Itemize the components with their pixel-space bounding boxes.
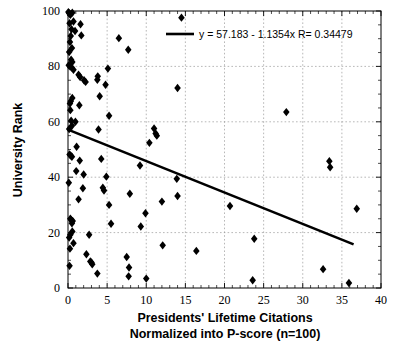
chart-svg: y = 57.183 - 1.1354x R= 0.34479 05101520… bbox=[0, 0, 399, 350]
x-tick-label: 15 bbox=[179, 293, 191, 307]
data-point-marker bbox=[116, 34, 123, 42]
data-point-marker bbox=[159, 197, 166, 205]
x-tick-label: 20 bbox=[219, 293, 231, 307]
data-point-marker bbox=[178, 13, 185, 21]
x-tick-label: 40 bbox=[375, 293, 387, 307]
data-point-marker bbox=[66, 179, 73, 187]
y-tick-label: 20 bbox=[48, 226, 60, 240]
x-tick-label: 10 bbox=[140, 293, 152, 307]
data-point-marker bbox=[327, 163, 334, 171]
data-point-marker bbox=[86, 231, 93, 239]
data-point-marker bbox=[251, 234, 258, 242]
data-point-marker bbox=[80, 170, 87, 178]
data-point-marker bbox=[78, 31, 85, 39]
data-point-marker bbox=[125, 46, 132, 54]
legend: y = 57.183 - 1.1354x R= 0.34479 bbox=[166, 28, 353, 40]
data-point-marker bbox=[353, 205, 360, 213]
data-point-marker bbox=[283, 108, 290, 116]
data-point-marker bbox=[66, 262, 73, 270]
data-point-marker bbox=[123, 253, 130, 261]
x-tick-label: 25 bbox=[258, 293, 270, 307]
x-tick-label: 5 bbox=[104, 293, 110, 307]
data-point-marker bbox=[146, 139, 153, 147]
data-point-marker bbox=[83, 250, 90, 258]
scatter-chart: y = 57.183 - 1.1354x R= 0.34479 05101520… bbox=[0, 0, 399, 350]
x-tick-label: 30 bbox=[297, 293, 309, 307]
x-axis-title-line2: Normalized into P-score (n=100) bbox=[130, 327, 321, 341]
data-point-marker bbox=[75, 195, 82, 203]
data-point-marker bbox=[193, 247, 200, 255]
data-point-marker bbox=[73, 143, 80, 151]
legend-equation-label: y = 57.183 - 1.1354x R= 0.34479 bbox=[199, 28, 353, 40]
data-point-marker bbox=[346, 279, 353, 287]
y-tick-label: 0 bbox=[54, 281, 60, 295]
x-tick-label: 35 bbox=[336, 293, 348, 307]
data-point-marker bbox=[174, 192, 181, 200]
data-point-marker bbox=[249, 276, 256, 284]
data-point-marker bbox=[173, 175, 180, 183]
data-point-marker bbox=[95, 125, 102, 133]
data-point-marker bbox=[73, 167, 80, 175]
y-axis-tick-labels: 020406080100 bbox=[42, 4, 60, 295]
data-point-marker bbox=[143, 274, 150, 282]
data-point-marker bbox=[77, 20, 84, 28]
data-point-marker bbox=[137, 161, 144, 169]
data-point-marker bbox=[174, 84, 181, 92]
data-point-marker bbox=[76, 101, 83, 109]
data-point-marker bbox=[108, 220, 115, 228]
y-tick-label: 60 bbox=[48, 115, 60, 129]
y-tick-label: 100 bbox=[42, 4, 60, 18]
data-point-marker bbox=[96, 92, 103, 100]
data-point-marker bbox=[103, 172, 110, 180]
y-axis-title: University Rank bbox=[11, 103, 25, 198]
data-point-marker bbox=[80, 184, 87, 192]
data-point-marker bbox=[159, 241, 166, 249]
data-point-marker bbox=[98, 155, 105, 163]
data-point-marker bbox=[125, 272, 132, 280]
data-point-marker bbox=[102, 80, 109, 88]
data-point-marker bbox=[137, 222, 144, 230]
data-point-marker bbox=[320, 265, 327, 273]
data-point-marker bbox=[227, 202, 234, 210]
x-axis-tick-labels: 0510152025303540 bbox=[65, 293, 387, 307]
data-point-marker bbox=[94, 269, 101, 277]
data-point-marker bbox=[76, 156, 83, 164]
y-tick-label: 40 bbox=[48, 170, 60, 184]
data-point-marker bbox=[105, 64, 112, 72]
data-point-marker bbox=[142, 209, 149, 217]
y-tick-label: 80 bbox=[48, 59, 60, 73]
data-point-marker bbox=[126, 263, 133, 271]
data-point-marker bbox=[127, 190, 134, 198]
x-tick-label: 0 bbox=[65, 293, 71, 307]
x-axis-title-line1: Presidents' Lifetime Citations bbox=[137, 311, 312, 325]
